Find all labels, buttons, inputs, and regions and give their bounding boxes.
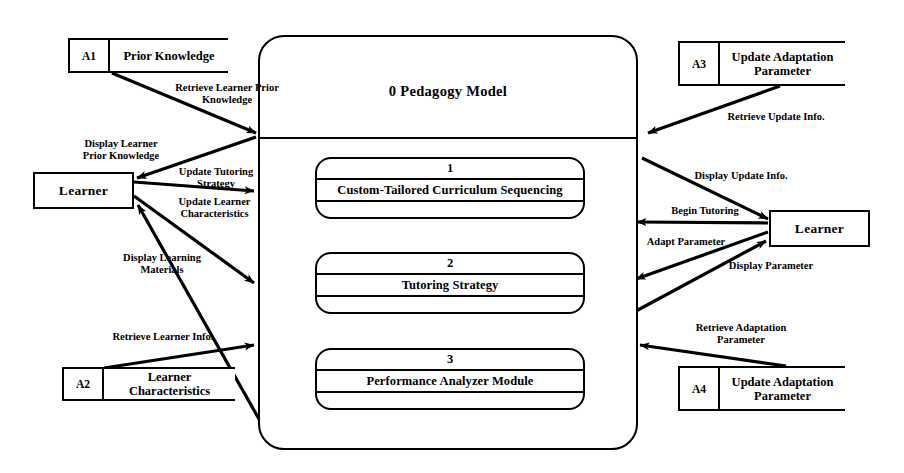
data-store-a1-name: Prior Knowledge — [110, 40, 228, 71]
flow-label-update-tutoring-strategy: Update Tutoring Strategy — [165, 166, 267, 190]
data-store-a3-id: A3 — [678, 43, 720, 84]
flow-label-adapt-parameter: Adapt Parameter — [636, 236, 736, 248]
flow-label-begin-tutoring: Begin Tutoring — [657, 205, 753, 217]
process-1-number: 1 — [317, 159, 583, 180]
process-3-number: 3 — [317, 350, 583, 371]
data-store-a2[interactable]: A2 Learner Characteristics — [62, 367, 235, 401]
flow-arrow-display-parameter — [636, 241, 766, 311]
data-store-a2-id: A2 — [62, 369, 104, 399]
data-store-a2-name: Learner Characteristics — [104, 369, 235, 399]
process-1[interactable]: 1 Custom-Tailored Curriculum Sequencing — [315, 157, 585, 219]
data-store-a1[interactable]: A1 Prior Knowledge — [68, 38, 228, 73]
process-1-name: Custom-Tailored Curriculum Sequencing — [317, 180, 583, 202]
external-entity-learner-right-label: Learner — [795, 221, 844, 237]
process-3-name: Performance Analyzer Module — [317, 371, 583, 393]
system-divider — [260, 137, 636, 139]
flow-arrow-begin-tutoring — [637, 222, 768, 223]
flow-label-display-update-info: Display Update Info. — [676, 170, 806, 182]
flow-arrow-retrieve-update-info — [648, 86, 780, 133]
flow-label-display-parameter: Display Parameter — [716, 260, 826, 272]
system-title: 0 Pedagogy Model — [260, 83, 636, 100]
process-3[interactable]: 3 Performance Analyzer Module — [315, 348, 585, 410]
external-entity-learner-left-label: Learner — [59, 183, 108, 199]
dfd-canvas: 0 Pedagogy Model 1 Custom-Tailored Curri… — [0, 0, 904, 473]
flow-label-display-prior-knowledge: Display Learner Prior Knowledge — [68, 138, 174, 162]
process-2-name: Tutoring Strategy — [317, 275, 583, 297]
data-store-a4[interactable]: A4 Update Adaptation Parameter — [678, 366, 845, 411]
flow-arrow-retrieve-adaptation-parameter — [640, 345, 786, 366]
data-store-a3-name: Update Adaptation Parameter — [720, 43, 845, 84]
process-2[interactable]: 2 Tutoring Strategy — [315, 252, 585, 314]
process-2-number: 2 — [317, 254, 583, 275]
flow-label-retrieve-update-info: Retrieve Update Info. — [708, 111, 844, 123]
flow-label-retrieve-prior-knowledge: Retrieve Learner Prior Knowledge — [152, 82, 302, 106]
data-store-a1-id: A1 — [68, 40, 110, 71]
external-entity-learner-left[interactable]: Learner — [33, 172, 134, 209]
flow-label-retrieve-adaptation-parameter: Retrieve Adaptation Parameter — [676, 322, 806, 346]
flow-label-retrieve-learner-info: Retrieve Learner Info. — [98, 331, 228, 343]
data-store-a4-name: Update Adaptation Parameter — [720, 368, 845, 409]
external-entity-learner-right[interactable]: Learner — [769, 210, 870, 247]
data-store-a3[interactable]: A3 Update Adaptation Parameter — [678, 41, 845, 86]
flow-label-update-learner-characteristics: Update Learner Characteristics — [162, 196, 267, 220]
data-store-a4-id: A4 — [678, 368, 720, 409]
flow-arrow-retrieve-learner-info — [104, 345, 254, 368]
flow-label-display-learning-materials: Display Learning Materials — [106, 252, 218, 276]
